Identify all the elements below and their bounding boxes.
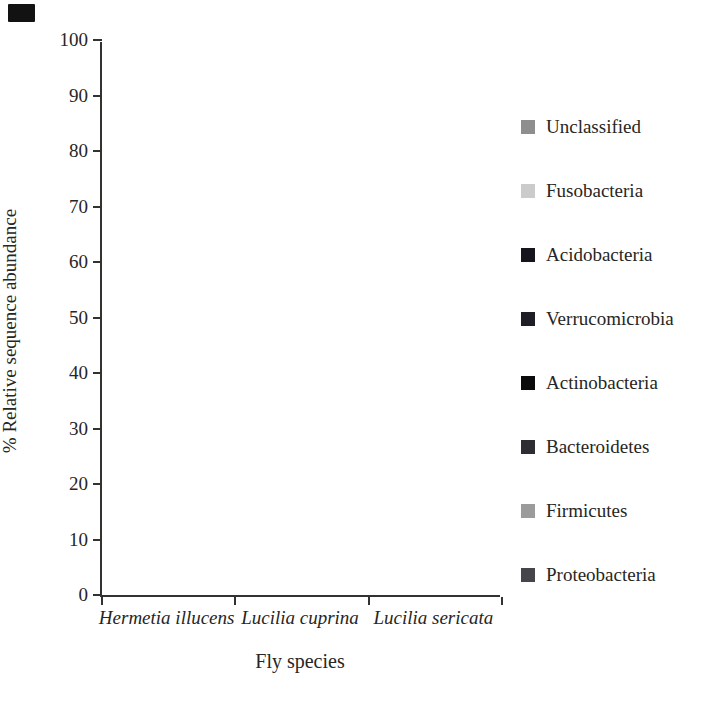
- legend-swatch-icon: [521, 312, 535, 326]
- y-axis-tick: [93, 95, 102, 97]
- y-axis-tick: [93, 428, 102, 430]
- legend: UnclassifiedFusobacteriaAcidobacteriaVer…: [521, 117, 674, 629]
- x-axis-tick: [501, 597, 503, 605]
- y-tick-label: 0: [28, 585, 88, 604]
- y-axis-tick: [93, 372, 102, 374]
- y-tick-label: 70: [28, 197, 88, 216]
- category-label: Lucilia cuprina: [230, 606, 370, 630]
- y-axis-title: % Relative sequence abundance: [0, 181, 21, 481]
- x-axis-tick: [368, 597, 370, 605]
- y-axis-tick: [93, 483, 102, 485]
- y-axis-tick: [93, 317, 102, 319]
- legend-swatch-icon: [521, 248, 535, 262]
- legend-item: Firmicutes: [521, 501, 674, 521]
- legend-item: Fusobacteria: [521, 181, 674, 201]
- y-axis-tick: [93, 206, 102, 208]
- plot-area: 0102030405060708090100: [100, 42, 500, 597]
- x-axis-tick: [234, 597, 236, 605]
- legend-swatch-icon: [521, 184, 535, 198]
- category-label: Lucilia sericata: [363, 606, 503, 630]
- legend-item: Acidobacteria: [521, 245, 674, 265]
- y-tick-label: 10: [28, 530, 88, 549]
- scan-artifact-mark: [8, 4, 35, 22]
- y-tick-label: 40: [28, 363, 88, 382]
- legend-swatch-icon: [521, 568, 535, 582]
- legend-item: Unclassified: [521, 117, 674, 137]
- legend-item: Verrucomicrobia: [521, 309, 674, 329]
- legend-swatch-icon: [521, 120, 535, 134]
- y-tick-label: 20: [28, 474, 88, 493]
- legend-label: Verrucomicrobia: [546, 308, 674, 330]
- y-axis-tick: [93, 150, 102, 152]
- legend-label: Proteobacteria: [546, 564, 656, 586]
- legend-item: Proteobacteria: [521, 565, 674, 585]
- legend-label: Firmicutes: [546, 500, 627, 522]
- y-tick-label: 50: [28, 308, 88, 327]
- chart-figure: % Relative sequence abundance 0102030405…: [0, 0, 706, 712]
- y-tick-label: 30: [28, 419, 88, 438]
- y-axis-tick: [93, 39, 102, 41]
- legend-label: Acidobacteria: [546, 244, 653, 266]
- legend-label: Unclassified: [546, 116, 641, 138]
- x-axis-tick: [101, 597, 103, 605]
- y-tick-label: 80: [28, 141, 88, 160]
- legend-label: Bacteroidetes: [546, 436, 649, 458]
- x-axis-title: Fly species: [180, 650, 420, 673]
- legend-swatch-icon: [521, 504, 535, 518]
- legend-swatch-icon: [521, 376, 535, 390]
- legend-label: Fusobacteria: [546, 180, 643, 202]
- y-tick-label: 60: [28, 252, 88, 271]
- legend-swatch-icon: [521, 440, 535, 454]
- legend-item: Actinobacteria: [521, 373, 674, 393]
- y-tick-label: 90: [28, 86, 88, 105]
- category-label: Hermetia illucens: [97, 606, 237, 630]
- y-axis-tick: [93, 594, 102, 596]
- legend-item: Bacteroidetes: [521, 437, 674, 457]
- y-axis-tick: [93, 539, 102, 541]
- y-tick-label: 100: [28, 30, 88, 49]
- y-axis-tick: [93, 261, 102, 263]
- legend-label: Actinobacteria: [546, 372, 658, 394]
